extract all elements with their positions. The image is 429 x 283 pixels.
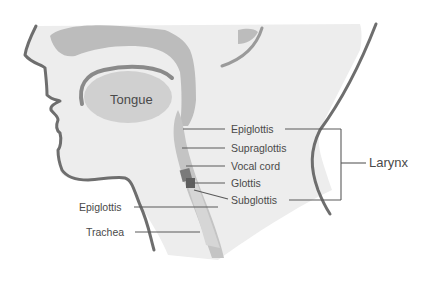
label-glottis: Glottis xyxy=(231,177,261,189)
label-larynx: Larynx xyxy=(369,155,409,170)
label-trachea: Trachea xyxy=(86,226,124,238)
label-vocal-cord: Vocal cord xyxy=(231,160,280,172)
label-epiglottis-right: Epiglottis xyxy=(231,123,274,135)
head-silhouette xyxy=(25,24,362,260)
label-tongue: Tongue xyxy=(110,92,153,107)
label-subglottis: Subglottis xyxy=(231,194,277,206)
label-supraglottis: Supraglottis xyxy=(231,142,286,154)
larynx-diagram: Tongue Epiglottis Supraglottis Vocal cor… xyxy=(0,0,429,283)
label-epiglottis-left: Epiglottis xyxy=(79,201,122,213)
